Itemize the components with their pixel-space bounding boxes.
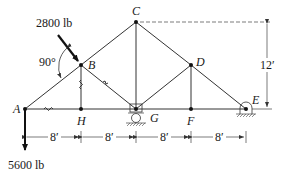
- node-label-C: C: [132, 4, 141, 18]
- joint-D: [189, 63, 193, 67]
- span-dimensions: 8′ 8′ 8′ 8′: [25, 130, 246, 144]
- truss-diagram: 12′ 8′ 8′ 8′ 8′: [0, 0, 282, 175]
- member-DE: [191, 65, 246, 109]
- inclined-load-label: 2800 lb: [36, 16, 72, 30]
- section-cut-marks: [44, 80, 108, 111]
- node-label-H: H: [76, 114, 87, 128]
- node-label-F: F: [186, 114, 195, 128]
- span-label-FE: 8′: [215, 130, 224, 144]
- span-label-GF: 8′: [160, 130, 169, 144]
- joint-C: [134, 20, 138, 24]
- angle-label: 90°: [39, 55, 56, 69]
- height-label: 12′: [260, 58, 275, 72]
- span-label-HG: 8′: [105, 130, 114, 144]
- vertical-load-label: 5600 lb: [8, 158, 44, 172]
- node-label-G: G: [150, 111, 159, 125]
- vertical-load-A: 5600 lb: [8, 109, 44, 172]
- node-label-B: B: [88, 58, 96, 72]
- member-DG: [136, 65, 191, 109]
- joint-H: [79, 107, 83, 111]
- member-AB: [25, 65, 81, 109]
- node-label-A: A: [12, 102, 21, 116]
- node-label-E: E: [251, 93, 260, 107]
- joint-G: [134, 107, 138, 111]
- node-label-D: D: [195, 55, 205, 69]
- joint-E: [244, 107, 248, 111]
- span-label-AH: 8′: [50, 130, 59, 144]
- joint-B: [79, 63, 83, 67]
- member-CD: [136, 22, 191, 65]
- joint-F: [189, 107, 193, 111]
- right-angle-indicator: 90°: [39, 48, 67, 78]
